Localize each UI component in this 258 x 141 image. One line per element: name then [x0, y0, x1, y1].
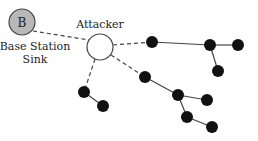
attacker-node — [87, 34, 113, 60]
sensor-node — [97, 100, 109, 112]
sensor-node — [201, 94, 213, 106]
attacker-label: Attacker — [75, 18, 124, 31]
base-station-label: Base Station — [0, 40, 70, 53]
sensor-node — [172, 89, 184, 101]
sensor-node — [146, 36, 158, 48]
sensor-node — [212, 65, 224, 77]
sensor-node — [78, 86, 90, 98]
base-station-letter: B — [18, 16, 27, 30]
dashed-link-attacker-node — [111, 55, 145, 77]
network-diagram: B Base Station Sink Attacker — [0, 0, 258, 141]
sensor-node — [204, 39, 216, 51]
sensor-node — [181, 111, 193, 123]
sensor-node — [206, 121, 218, 133]
dashed-link-sink-attacker — [33, 31, 89, 40]
sensor-node — [232, 39, 244, 51]
sensor-node — [139, 71, 151, 83]
sink-label: Sink — [23, 53, 48, 66]
